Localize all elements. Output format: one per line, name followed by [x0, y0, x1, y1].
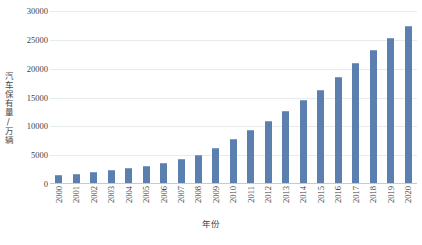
x-tick-slot: 2014: [295, 186, 312, 218]
x-tick-slot: 2001: [67, 186, 84, 218]
bar-slot: [85, 11, 102, 184]
bar-slot: [137, 11, 154, 184]
x-tick-slot: 2011: [242, 186, 259, 218]
bar-slot: [120, 11, 137, 184]
x-axis-tick-label: 2015: [317, 186, 326, 203]
bar-slot: [399, 11, 416, 184]
figure-caption: [0, 238, 422, 245]
bar[interactable]: [230, 139, 237, 184]
x-axis-title: 年份: [0, 219, 422, 229]
x-axis-tick-label: 2008: [194, 186, 203, 203]
x-axis-tick-label: 2019: [386, 186, 395, 203]
bar[interactable]: [405, 26, 412, 184]
y-axis-tick-label: 30000: [6, 7, 48, 16]
vehicle-ownership-bar-chart: 汽车保有量/万辆 050001000015000200002500030000 …: [0, 0, 422, 245]
plot-area: [50, 11, 417, 184]
bar-slot: [207, 11, 224, 184]
bar[interactable]: [143, 166, 150, 184]
y-axis-tick-label: 0: [6, 180, 48, 189]
x-axis-tick-label: 2014: [299, 186, 308, 203]
x-tick-slot: 2002: [85, 186, 102, 218]
x-tick-slot: 2003: [102, 186, 119, 218]
x-axis-tick-label: 2004: [124, 186, 133, 203]
x-tick-slot: 2015: [312, 186, 329, 218]
bar[interactable]: [317, 90, 324, 184]
x-tick-slot: 2009: [207, 186, 224, 218]
bar[interactable]: [370, 50, 377, 184]
x-tick-slot: 2005: [137, 186, 154, 218]
x-axis-tick-label: 2007: [177, 186, 186, 203]
y-axis-tick-label: 15000: [6, 93, 48, 102]
x-axis-line: [50, 183, 417, 184]
x-tick-slot: 2006: [155, 186, 172, 218]
bar-slot: [260, 11, 277, 184]
y-axis-tick-label: 10000: [6, 122, 48, 131]
x-tick-slot: 2004: [120, 186, 137, 218]
bar-slot: [347, 11, 364, 184]
bar-slot: [312, 11, 329, 184]
x-tick-slot: 2017: [347, 186, 364, 218]
bar-slot: [67, 11, 84, 184]
x-axis-tick-label: 2000: [54, 186, 63, 203]
bar[interactable]: [247, 130, 254, 184]
x-axis-tick-label: 2018: [369, 186, 378, 203]
x-axis-tick-label: 2020: [404, 186, 413, 203]
bar-slot: [102, 11, 119, 184]
bar-slot: [225, 11, 242, 184]
bar-slot: [242, 11, 259, 184]
y-axis-tick-label: 20000: [6, 64, 48, 73]
x-axis-tick-label: 2006: [159, 186, 168, 203]
bar-slot: [155, 11, 172, 184]
bar[interactable]: [212, 148, 219, 184]
x-axis-tick-label: 2005: [142, 186, 151, 203]
x-tick-slot: 2007: [172, 186, 189, 218]
y-axis-tick-label: 25000: [6, 36, 48, 45]
x-axis-tick-label: 2001: [72, 186, 81, 203]
bar[interactable]: [300, 100, 307, 184]
x-tick-slot: 2019: [382, 186, 399, 218]
bar-slot: [277, 11, 294, 184]
bar[interactable]: [282, 111, 289, 184]
x-tick-slot: 2020: [399, 186, 416, 218]
y-axis-tick-label: 5000: [6, 151, 48, 160]
bar-slot: [50, 11, 67, 184]
bar[interactable]: [265, 121, 272, 184]
bar-slot: [295, 11, 312, 184]
x-tick-slot: 2013: [277, 186, 294, 218]
bar[interactable]: [387, 38, 394, 184]
x-axis-tick-label: 2012: [264, 186, 273, 203]
x-tick-slot: 2008: [190, 186, 207, 218]
x-axis-tick-label: 2011: [247, 186, 256, 203]
x-axis-tick-label: 2003: [107, 186, 116, 203]
bar[interactable]: [108, 170, 115, 184]
bar[interactable]: [335, 77, 342, 184]
x-axis-tick-label: 2013: [282, 186, 291, 203]
bar-slot: [172, 11, 189, 184]
bar[interactable]: [352, 63, 359, 184]
x-tick-slot: 2012: [260, 186, 277, 218]
bar-slot: [190, 11, 207, 184]
x-tick-slot: 2016: [330, 186, 347, 218]
x-tick-slot: 2010: [225, 186, 242, 218]
bar-series: [50, 11, 417, 184]
x-axis-tick-label: 2009: [212, 186, 221, 203]
x-tick-slot: 2000: [50, 186, 67, 218]
bar-slot: [330, 11, 347, 184]
bar[interactable]: [160, 163, 167, 184]
x-axis-tick-label: 2010: [229, 186, 238, 203]
bar[interactable]: [125, 168, 132, 184]
x-axis-tick-label: 2017: [351, 186, 360, 203]
bar[interactable]: [195, 155, 202, 184]
y-axis-tick-labels: 050001000015000200002500030000: [0, 0, 48, 245]
bar-slot: [382, 11, 399, 184]
x-tick-slot: 2018: [364, 186, 381, 218]
x-axis-tick-label: 2016: [334, 186, 343, 203]
x-axis-tick-label: 2002: [89, 186, 98, 203]
bar-slot: [364, 11, 381, 184]
bar[interactable]: [178, 159, 185, 184]
x-axis-tick-labels: 2000200120022003200420052006200720082009…: [50, 186, 417, 218]
